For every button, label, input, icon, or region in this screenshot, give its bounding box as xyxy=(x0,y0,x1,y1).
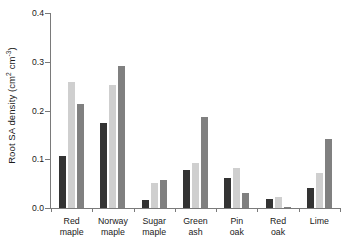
x-axis-tick xyxy=(175,208,176,212)
bar xyxy=(192,163,199,208)
bar xyxy=(59,156,66,208)
bar xyxy=(242,193,249,208)
x-axis-tick xyxy=(257,208,258,212)
bar-group xyxy=(183,13,208,208)
y-axis-title-main: Root SA density (cm xyxy=(6,75,17,163)
bar-group xyxy=(59,13,84,208)
bar-group xyxy=(100,13,125,208)
bar xyxy=(68,82,75,208)
bar-chart-figure: Root SA density (cm2 cm-3) 0.00.10.20.30… xyxy=(0,0,344,251)
bar xyxy=(316,173,323,208)
bar xyxy=(325,139,332,208)
bar xyxy=(77,104,84,208)
y-axis-tick xyxy=(45,62,50,63)
plot-area xyxy=(51,13,340,208)
bar xyxy=(284,207,291,208)
bar xyxy=(142,200,149,208)
bar xyxy=(266,199,273,208)
bar xyxy=(201,117,208,208)
bar xyxy=(233,168,240,208)
x-axis-category-label-line: oak xyxy=(251,227,305,238)
bar xyxy=(151,183,158,208)
x-axis-tick xyxy=(134,208,135,212)
y-axis-tick-label: 0.0 xyxy=(18,203,44,213)
bar xyxy=(224,178,231,208)
x-axis-tick xyxy=(92,208,93,212)
bar xyxy=(100,123,107,208)
y-axis-tick xyxy=(45,159,50,160)
y-axis-title-sup-1: 2 xyxy=(4,72,11,76)
bar xyxy=(275,197,282,208)
bar-group xyxy=(307,13,332,208)
x-axis-category-label-line: Lime xyxy=(292,216,344,227)
bar xyxy=(183,170,190,208)
x-axis-tick xyxy=(216,208,217,212)
y-axis-tick-label: 0.1 xyxy=(18,154,44,164)
y-axis-tick-label: 0.3 xyxy=(18,57,44,67)
y-axis-title-mid: cm xyxy=(6,56,17,72)
x-axis-line xyxy=(50,208,340,209)
y-axis-title-end: ) xyxy=(6,47,17,50)
x-axis-tick xyxy=(51,208,52,212)
y-axis-tick-label: 0.4 xyxy=(18,8,44,18)
x-axis-category-label: Lime xyxy=(292,216,344,227)
y-axis-tick-label: 0.2 xyxy=(18,106,44,116)
bar xyxy=(109,85,116,208)
x-axis-tick xyxy=(340,208,341,212)
bar-group xyxy=(266,13,291,208)
y-axis-title-text: Root SA density (cm2 cm-3) xyxy=(6,47,17,164)
bar-group xyxy=(142,13,167,208)
bar xyxy=(160,180,167,208)
y-axis-tick xyxy=(45,13,50,14)
bar xyxy=(118,66,125,208)
bar-group xyxy=(224,13,249,208)
y-axis-tick xyxy=(45,111,50,112)
bar xyxy=(307,188,314,208)
x-axis-tick xyxy=(299,208,300,212)
